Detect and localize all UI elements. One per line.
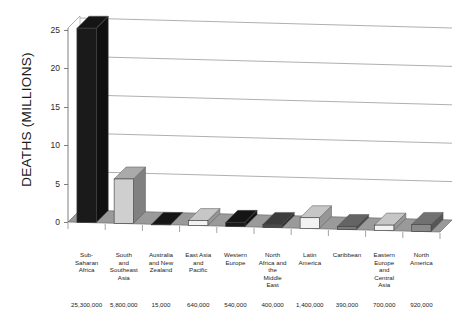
category-label-line: Middle	[250, 274, 295, 282]
category-label-line: East	[250, 281, 295, 289]
category-label-line: Central	[362, 274, 407, 282]
gridline	[80, 56, 452, 66]
bar-front-face	[337, 227, 356, 230]
bar-front-face	[263, 224, 282, 227]
gridline	[80, 133, 452, 143]
gridline	[80, 18, 452, 28]
category-label-line: the	[250, 266, 295, 274]
bar-front-face	[226, 222, 245, 226]
bar	[114, 167, 145, 224]
gridline	[80, 95, 452, 105]
bar-front-face	[151, 224, 170, 225]
category-label-line: Asia	[362, 281, 407, 289]
axis-depth-connector	[68, 16, 80, 28]
bar-chart: DEATHS (MILLIONS) 0510152025 Sub-Saharan…	[0, 0, 464, 327]
category-label-line: and	[362, 266, 407, 274]
bar-front-face	[189, 221, 208, 226]
bar-front-face	[300, 218, 319, 229]
bar-front-face	[114, 179, 133, 224]
category-label-line: America	[399, 259, 444, 267]
category-label-line: America	[287, 259, 332, 267]
category-label-line: Asia	[101, 274, 146, 282]
category-label-line: North	[399, 251, 444, 259]
bar-front-face	[77, 28, 96, 222]
gridlines	[80, 18, 452, 182]
bar-front-face	[412, 224, 431, 231]
category-label: NorthAmerica	[399, 251, 444, 266]
bar-front-face	[375, 225, 394, 230]
category-label-line: Pacific	[176, 266, 221, 274]
bar-series	[77, 16, 443, 231]
bar	[77, 16, 108, 222]
bar-side-face	[96, 16, 108, 222]
value-label: 920,000	[397, 301, 446, 308]
